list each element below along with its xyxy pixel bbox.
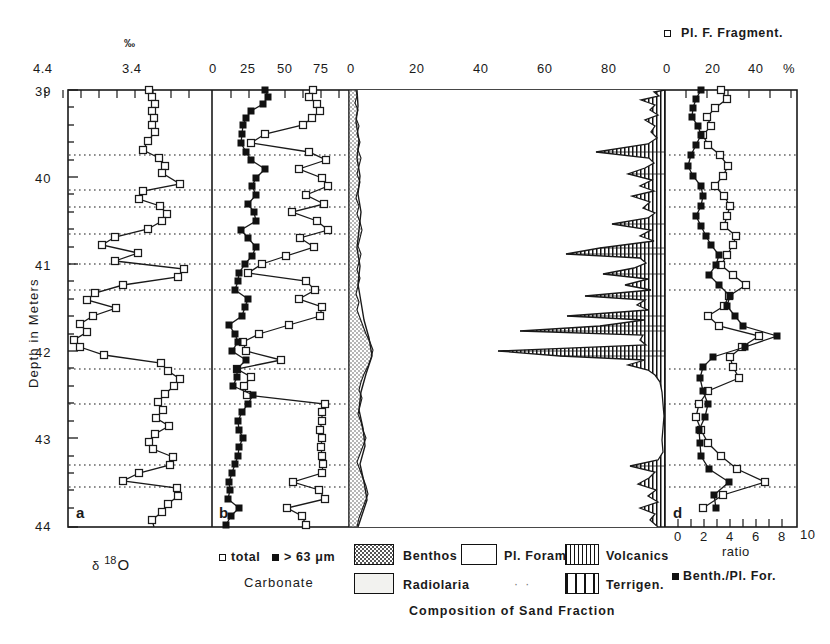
d18o-markers [71, 87, 188, 524]
tick-d-ratio-8: 8 [778, 530, 786, 543]
carbonate-coarse-legend-icon [272, 554, 279, 561]
tick-d-ratio-2: 2 [700, 530, 708, 543]
legend-dots-icon: · · [514, 578, 531, 590]
legend-swatch-radiolaria [354, 573, 394, 594]
legend-label-pl-foram: Pl. Foram. [504, 550, 570, 563]
legend-label-terrigen: Terrigen. [606, 579, 664, 592]
figure-root: ‰ 4.4 3.4 0 25 50 75 0 20 40 60 80 0 20 … [0, 0, 830, 644]
legend-label-benthos: Benthos [403, 550, 457, 563]
legend-label-radiolaria: Radiolaria [403, 579, 469, 592]
ratio-markers [685, 87, 781, 512]
delta-symbol: δ [92, 558, 99, 573]
legend-swatch-pl-foram [461, 544, 497, 565]
oxygen-mass-number: 18 [104, 554, 116, 566]
carbonate-coarse-markers [223, 87, 272, 529]
legend-carbonate-total: total [231, 551, 260, 564]
oxygen-symbol: O [118, 556, 130, 573]
panel-d-ratio-series [685, 87, 781, 512]
legend-swatch-terrigen [565, 573, 599, 594]
legend-benth-pl-for: Benth./Pl. For. [683, 570, 776, 583]
legend-swatch-volcanics [565, 544, 599, 565]
carbonate-total-legend-icon [219, 554, 226, 561]
panel-d-ratio-label: ratio [722, 545, 750, 558]
legend-carbonate-coarse: > 63 μm [284, 551, 335, 564]
plot-canvas [0, 0, 830, 644]
benth-pl-ratio-legend-icon [672, 573, 679, 580]
legend-swatch-benthos [354, 544, 394, 565]
panel-b-carbonate-coarse-series [223, 87, 272, 529]
panel-c-sand-fraction [349, 90, 665, 527]
figure-bottom-caption: Composition of Sand Fraction [409, 605, 615, 618]
tick-d-ratio-10: 10 [800, 528, 815, 541]
panel-a-d18o-series [71, 87, 188, 528]
legend-label-volcanics: Volcanics [606, 550, 669, 563]
tick-d-ratio-0: 0 [674, 530, 682, 543]
panel-b-axis-title: Carbonate [244, 576, 314, 589]
bottom-axis-ticks-d [678, 519, 782, 527]
panel-a-axis-title: δ18O [92, 555, 129, 573]
tick-d-ratio-4: 4 [726, 530, 734, 543]
tick-d-ratio-6: 6 [752, 530, 760, 543]
